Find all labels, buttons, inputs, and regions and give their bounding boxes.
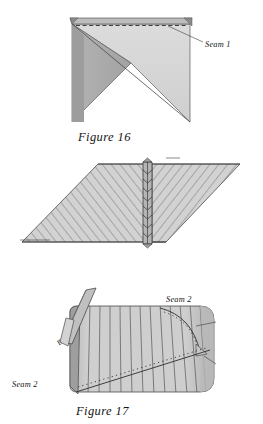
bias-panel-right <box>152 164 240 242</box>
figure-16-seam-1-label: Seam 1 <box>205 40 231 49</box>
figure-18: Seam 1 Seam 2 Figure 18 <box>0 282 263 424</box>
top-selvage <box>70 18 192 24</box>
seam-band-top-notch <box>143 158 152 162</box>
figure-17-illustration <box>0 148 263 283</box>
gathered-tube-body <box>70 306 214 392</box>
bias-panel-left <box>22 164 145 242</box>
seam-band-bottom-notch <box>143 244 152 248</box>
figure-plate: Seam 1 Figure 16 <box>0 0 263 424</box>
figure-16-illustration <box>0 0 263 150</box>
figure-17: Seam 2 Seam 1 Seam 2 Bias edge Bias edge… <box>0 148 263 283</box>
figure-16: Seam 1 Figure 16 <box>0 0 263 150</box>
fabric-fold-shadow <box>72 24 84 122</box>
figure-16-caption: Figure 16 <box>78 130 131 145</box>
figure-18-illustration <box>0 282 263 424</box>
